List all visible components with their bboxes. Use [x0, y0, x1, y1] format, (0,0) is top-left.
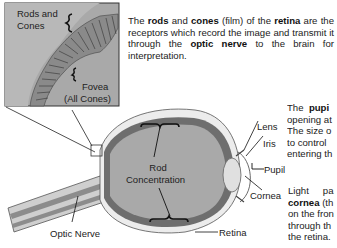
label-rods-and-cones-line1: Rods and — [17, 8, 58, 19]
text: (film) of the — [219, 15, 275, 26]
text: The — [128, 15, 148, 26]
term-optic-nerve: optic nerve — [190, 38, 247, 49]
label-retina: Retina — [219, 227, 246, 238]
text: (th — [319, 197, 333, 208]
term-pupil: pupi — [309, 102, 329, 113]
label-pupil: Pupil — [264, 164, 285, 175]
text-line: through th — [288, 220, 337, 232]
label-optic-nerve: Optic Nerve — [50, 228, 100, 239]
label-lens: Lens — [257, 121, 278, 132]
text-line: the retina. — [288, 231, 337, 243]
label-rods-and-cones-line2: Cones — [17, 20, 44, 31]
lens-graphic — [223, 158, 241, 192]
label-fovea-line2: (All Cones) — [64, 93, 111, 104]
text-line: entering th — [287, 148, 337, 160]
label-rod-concentration-line1: Rod — [148, 162, 168, 173]
text: and — [169, 15, 191, 26]
inset-connector-line — [72, 110, 92, 146]
paragraph-cornea-description: Lightpa cornea (th on the fron through t… — [288, 185, 337, 243]
label-rod-concentration-line2: Concentration — [126, 174, 185, 185]
text: The — [287, 102, 306, 113]
text-line: to control — [287, 137, 337, 149]
text-line: opening at — [287, 114, 337, 126]
label-cornea: Cornea — [250, 190, 281, 201]
term-rods: rods — [148, 15, 169, 26]
paragraph-pupil-description: The pupi opening at The size o to contro… — [287, 102, 337, 160]
text-line: on the fron — [288, 208, 337, 220]
term-retina: retina — [274, 15, 300, 26]
paragraph-retina-description: The rods and cones (film) of the retina … — [128, 15, 334, 61]
vitreous-graphic — [110, 124, 226, 220]
text-line: The size o — [287, 125, 337, 137]
term-cones: cones — [191, 15, 219, 26]
text: Light — [288, 185, 309, 196]
text: pa — [323, 185, 334, 196]
inset-connector-line — [6, 107, 95, 152]
label-iris: Iris — [263, 138, 276, 149]
term-cornea: cornea — [288, 197, 319, 208]
label-fovea-line1: Fovea — [82, 81, 108, 92]
optic-nerve-graphic — [8, 176, 110, 232]
